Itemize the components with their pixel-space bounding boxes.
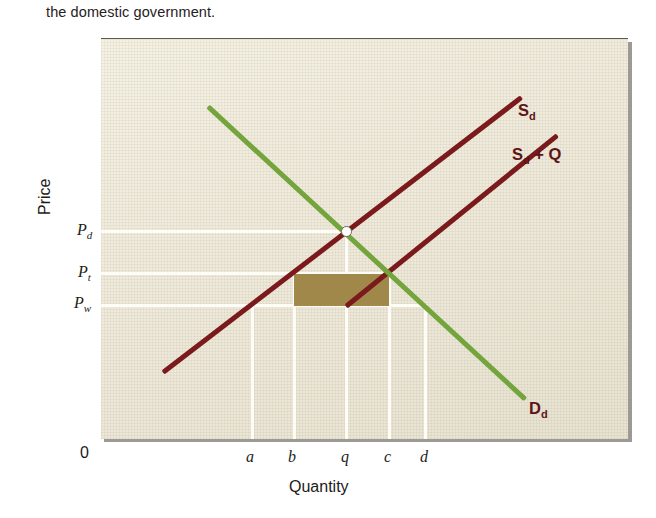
x-tick-label-d: d: [420, 448, 428, 466]
figure-page: the domestic government. Sd Sd + Q: [0, 0, 656, 518]
x-axis-title: Quantity: [289, 478, 349, 496]
y-axis-title: Price: [36, 179, 54, 215]
curve-label-dd-base: D: [529, 399, 541, 417]
curve-label-sd-base: S: [518, 101, 529, 119]
y-tick-pw-base: P: [74, 294, 84, 311]
curve-label-dd-sub: d: [541, 408, 548, 420]
y-tick-label-pd: Pd: [77, 221, 92, 241]
y-tick-label-pw: Pw: [74, 294, 91, 314]
y-tick-pd-sub: d: [87, 229, 93, 241]
curve-label-sd: Sd: [518, 101, 536, 122]
body-text-caption: the domestic government.: [46, 4, 215, 20]
curve-label-sdq-suffix: + Q: [530, 145, 562, 163]
gridline-vertical-q: [345, 230, 348, 439]
y-tick-pw-sub: w: [84, 302, 91, 314]
curve-label-dd: Dd: [529, 399, 548, 420]
chart-plot-area: Sd Sd + Q Dd: [101, 38, 628, 439]
x-tick-label-c: c: [384, 448, 391, 466]
gridline-vertical-a: [251, 304, 254, 439]
y-tick-pt-base: P: [78, 263, 88, 280]
curve-label-sdq-base: S: [512, 145, 523, 163]
curve-label-sd-plus-q: Sd + Q: [512, 145, 561, 166]
demand-curve-dd: [206, 105, 527, 402]
curve-label-sd-sub: d: [529, 110, 536, 122]
origin-label: 0: [80, 444, 89, 462]
gridline-vertical-d: [424, 304, 427, 439]
y-tick-pd-base: P: [77, 221, 87, 238]
x-tick-label-a: a: [246, 448, 254, 466]
curve-label-sdq-sub: d: [523, 154, 530, 166]
equilibrium-point-marker: [341, 226, 352, 237]
x-tick-label-q: q: [341, 448, 349, 466]
y-tick-pt-sub: t: [88, 271, 91, 283]
y-tick-label-pt: Pt: [78, 263, 91, 283]
x-tick-label-b: b: [288, 448, 296, 466]
gridline-horizontal-pd: [101, 230, 347, 233]
